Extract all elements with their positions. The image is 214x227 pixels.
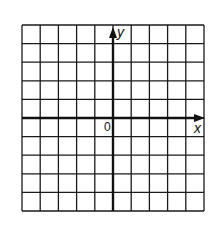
x-axis-label: x xyxy=(193,120,202,136)
coordinate-plane: 0 x y xyxy=(0,0,214,227)
axes xyxy=(22,27,205,211)
y-axis-label: y xyxy=(116,24,125,40)
y-axis-arrowhead-icon xyxy=(109,27,117,38)
origin-label: 0 xyxy=(104,120,111,134)
